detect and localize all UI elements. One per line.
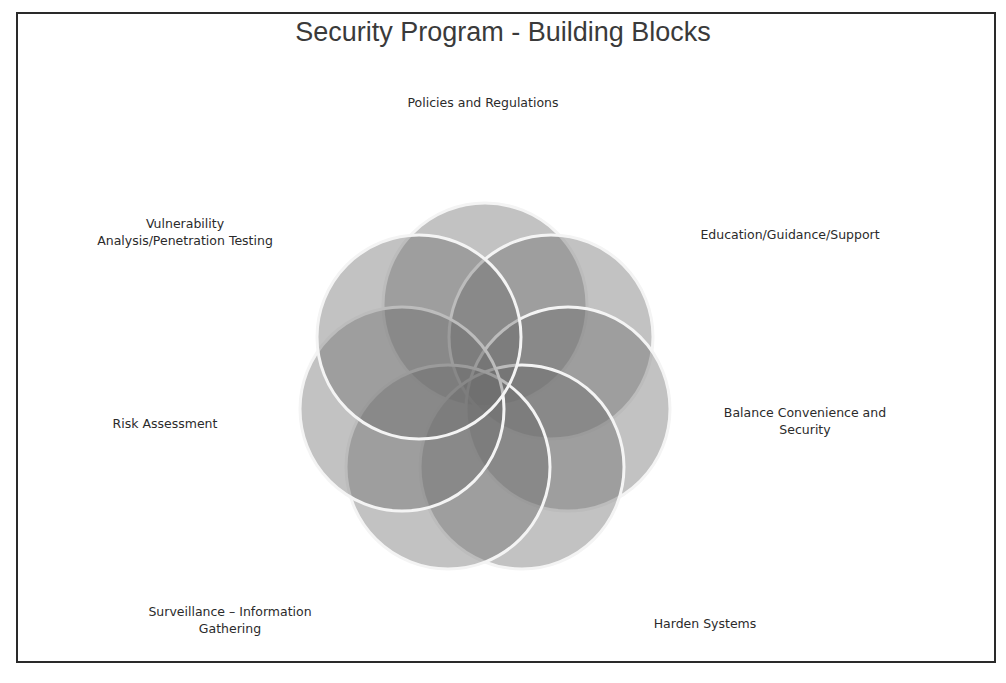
label-education-guidance-support: Education/Guidance/Support xyxy=(660,226,920,243)
petal-vulnerability xyxy=(317,235,521,439)
label-vulnerability-analysis: Vulnerability Analysis/Penetration Testi… xyxy=(60,215,310,249)
label-line: Balance Convenience and xyxy=(690,404,920,421)
label-text: Risk Assessment xyxy=(113,416,218,431)
label-balance-convenience-security: Balance Convenience and Security xyxy=(690,404,920,438)
label-surveillance-information-gathering: Surveillance – Information Gathering xyxy=(130,603,330,637)
label-line: Vulnerability xyxy=(60,215,310,232)
label-line: Gathering xyxy=(130,620,330,637)
label-line: Analysis/Penetration Testing xyxy=(60,232,310,249)
label-harden-systems: Harden Systems xyxy=(630,615,780,632)
label-risk-assessment: Risk Assessment xyxy=(90,415,240,432)
label-text: Policies and Regulations xyxy=(408,95,559,110)
label-policies-and-regulations: Policies and Regulations xyxy=(383,94,583,111)
label-line: Surveillance – Information xyxy=(130,603,330,620)
label-text: Harden Systems xyxy=(654,616,757,631)
label-text: Education/Guidance/Support xyxy=(700,227,879,242)
petal-circles xyxy=(300,203,670,569)
label-line: Security xyxy=(690,421,920,438)
